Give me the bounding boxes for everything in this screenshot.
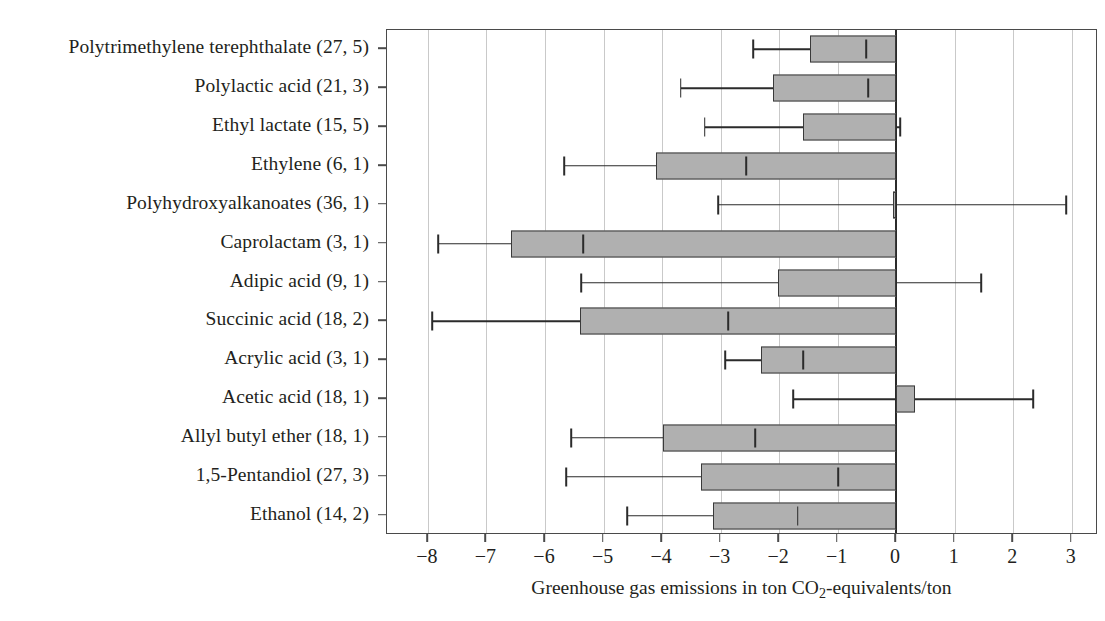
x-axis-tick-label: −4: [650, 546, 671, 566]
bar: [511, 230, 896, 257]
category-label: Acrylic acid (3, 1): [0, 348, 378, 368]
bar: [778, 269, 896, 296]
y-axis-tick: [378, 203, 386, 205]
error-bar-cap: [754, 428, 756, 447]
error-bar-cap: [580, 273, 582, 292]
x-axis-tick: [719, 534, 721, 542]
ghg-emissions-bar-chart: Polytrimethylene terephthalate (27, 5)Po…: [0, 0, 1105, 621]
error-bar-cap: [437, 234, 439, 253]
y-axis-tick: [378, 475, 386, 477]
x-axis-tick: [953, 534, 955, 542]
x-axis-tick-label: −6: [533, 546, 554, 566]
category-label: Ethanol (14, 2): [0, 504, 378, 524]
x-axis-tick-label: 1: [949, 546, 959, 566]
x-axis-tick: [426, 534, 428, 542]
error-bar-cap: [704, 118, 706, 137]
bar: [580, 308, 896, 335]
x-axis-tick-label: −8: [416, 546, 437, 566]
x-axis-tick: [777, 534, 779, 542]
error-bar-cap: [1066, 195, 1068, 214]
category-label: Ethylene (6, 1): [0, 154, 378, 174]
y-axis-tick: [378, 397, 386, 399]
y-axis-tick: [378, 281, 386, 283]
category-label: Caprolactam (3, 1): [0, 232, 378, 252]
error-bar-cap: [980, 273, 982, 292]
x-axis-tick: [836, 534, 838, 542]
x-axis-tick: [1070, 534, 1072, 542]
gridline: [1072, 30, 1073, 533]
bar: [810, 36, 896, 63]
category-label: Polytrimethylene terephthalate (27, 5): [0, 38, 378, 58]
x-axis-tick: [1011, 534, 1013, 542]
category-label: Adipic acid (9, 1): [0, 271, 378, 291]
bar: [663, 424, 896, 451]
x-axis-tick-label: −2: [767, 546, 788, 566]
x-axis-tick: [894, 534, 896, 542]
error-bar-cap: [1032, 390, 1034, 409]
bar: [713, 502, 896, 529]
x-axis-tick-label: −1: [826, 546, 847, 566]
category-label: Polylactic acid (21, 3): [0, 77, 378, 97]
bar: [761, 347, 896, 374]
x-axis-tick: [660, 534, 662, 542]
category-label: Ethyl lactate (15, 5): [0, 115, 378, 135]
y-axis-tick: [378, 242, 386, 244]
plot-area: [386, 29, 1097, 534]
x-axis-tick-label: −5: [592, 546, 613, 566]
error-bar-cap: [753, 40, 755, 59]
error-bar-cap: [867, 79, 869, 98]
bar: [701, 463, 896, 490]
y-axis-tick: [378, 48, 386, 50]
error-bar-cap: [717, 195, 719, 214]
x-axis-tick-label: 2: [1007, 546, 1017, 566]
bar: [896, 386, 915, 413]
category-label: Acetic acid (18, 1): [0, 387, 378, 407]
error-bar-cap: [727, 312, 729, 331]
x-axis-title: Greenhouse gas emissions in ton CO2-equi…: [386, 578, 1097, 600]
y-axis-tick: [378, 514, 386, 516]
error-bar-cap: [565, 467, 567, 486]
x-axis-tick-label: −7: [475, 546, 496, 566]
x-axis-tick: [485, 534, 487, 542]
x-axis-tick: [602, 534, 604, 542]
category-label: 1,5-Pentandiol (27, 3): [0, 465, 378, 485]
x-axis-tick: [543, 534, 545, 542]
x-axis-title-subscript: 2: [819, 585, 826, 601]
error-bar-cap: [626, 506, 628, 525]
bar: [773, 75, 896, 102]
x-axis-tick-label: 3: [1066, 546, 1076, 566]
bar: [893, 191, 896, 218]
y-axis-tick: [378, 86, 386, 88]
error-bar-cap: [837, 467, 839, 486]
x-axis-tick-label: −3: [709, 546, 730, 566]
error-bar-cap: [899, 118, 901, 137]
x-axis-title-post: -equivalents/ton: [826, 577, 952, 598]
y-axis-tick: [378, 125, 386, 127]
y-axis-tick: [378, 358, 386, 360]
y-axis-tick: [378, 320, 386, 322]
gridline: [486, 30, 487, 533]
x-axis-title-pre: Greenhouse gas emissions in ton CO: [531, 577, 819, 598]
error-bar-cap: [680, 79, 682, 98]
gridline: [1013, 30, 1014, 533]
error-bar-cap: [746, 156, 748, 175]
error-bar-cap: [582, 234, 584, 253]
category-axis-labels: Polytrimethylene terephthalate (27, 5)Po…: [0, 28, 378, 534]
y-axis-tick: [378, 436, 386, 438]
error-bar-cap: [564, 156, 566, 175]
error-bar-cap: [724, 351, 726, 370]
category-label: Allyl butyl ether (18, 1): [0, 426, 378, 446]
category-label: Succinic acid (18, 2): [0, 310, 378, 330]
bar: [656, 152, 896, 179]
error-bar-cap: [792, 390, 794, 409]
gridline: [545, 30, 546, 533]
category-label: Polyhydroxyalkanoates (36, 1): [0, 193, 378, 213]
gridline: [428, 30, 429, 533]
y-axis-tick: [378, 164, 386, 166]
error-bar-cap: [865, 40, 867, 59]
error-bar-cap: [802, 351, 804, 370]
error-bar-cap: [571, 428, 573, 447]
error-bar-cap: [797, 506, 799, 525]
plot-inner: [387, 30, 1096, 533]
x-axis-tick-label: 0: [890, 546, 900, 566]
